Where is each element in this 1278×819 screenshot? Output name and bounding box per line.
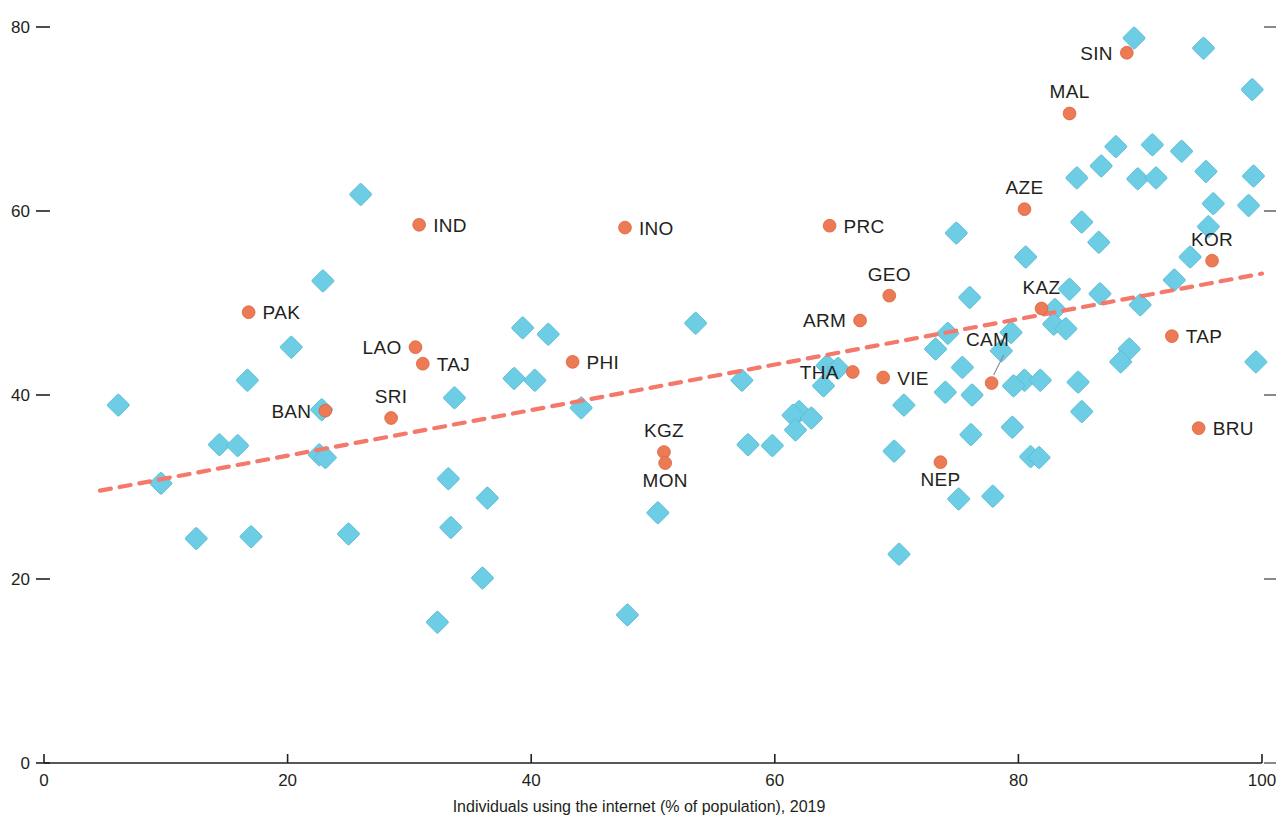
data-point-diamond bbox=[476, 486, 499, 509]
data-label-cam: CAM bbox=[966, 329, 1009, 350]
data-point-ind bbox=[413, 218, 426, 231]
scatter-chart: 020406080 020406080100 SINMALAZEPRCINDIN… bbox=[0, 0, 1278, 819]
data-point-diamond bbox=[958, 286, 981, 309]
x-tick-label-0: 0 bbox=[39, 771, 48, 790]
data-point-kaz bbox=[1035, 302, 1048, 315]
plot-area: 020406080 020406080100 SINMALAZEPRCINDIN… bbox=[0, 0, 1278, 819]
data-point-geo bbox=[883, 289, 896, 302]
data-label-kor: KOR bbox=[1191, 229, 1233, 250]
data-label-lao: LAO bbox=[363, 337, 402, 358]
x-tick-label-40: 40 bbox=[522, 771, 541, 790]
data-point-diamond bbox=[1104, 135, 1127, 158]
data-label-taj: TAJ bbox=[437, 354, 470, 375]
data-point-diamond bbox=[646, 501, 669, 524]
data-point-diamond bbox=[959, 423, 982, 446]
x-tick-label-20: 20 bbox=[278, 771, 297, 790]
data-point-diamond bbox=[1192, 37, 1215, 60]
data-label-vie: VIE bbox=[897, 368, 929, 389]
data-point-aze bbox=[1018, 203, 1031, 216]
data-point-nep bbox=[934, 456, 947, 469]
data-point-kor bbox=[1206, 254, 1219, 267]
x-tick-label-100: 100 bbox=[1248, 771, 1276, 790]
y-tick-label-80: 80 bbox=[11, 18, 30, 37]
data-point-diamond bbox=[947, 487, 970, 510]
data-label-sri: SRI bbox=[375, 386, 408, 407]
data-point-diamond bbox=[439, 516, 462, 539]
data-point-pak bbox=[242, 306, 255, 319]
data-point-ban bbox=[319, 404, 332, 417]
data-point-diamond bbox=[149, 472, 172, 495]
data-point-tap bbox=[1165, 330, 1178, 343]
data-point-diamond bbox=[1242, 164, 1265, 187]
data-point-diamond bbox=[1202, 192, 1225, 215]
data-point-phi bbox=[566, 355, 579, 368]
data-point-diamond bbox=[523, 369, 546, 392]
data-point-arm bbox=[854, 314, 867, 327]
data-point-taj bbox=[416, 357, 429, 370]
y-axis-ticks bbox=[36, 27, 50, 763]
data-label-kgz: KGZ bbox=[644, 420, 684, 441]
data-label-tap: TAP bbox=[1186, 326, 1222, 347]
data-point-diamond bbox=[1001, 416, 1024, 439]
data-point-diamond bbox=[1065, 166, 1088, 189]
data-point-prc bbox=[823, 219, 836, 232]
data-label-geo: GEO bbox=[868, 264, 911, 285]
data-point-diamond bbox=[1237, 194, 1260, 217]
data-point-diamond bbox=[443, 386, 466, 409]
data-point-diamond bbox=[1144, 166, 1167, 189]
data-point-diamond bbox=[761, 434, 784, 457]
y-tick-label-20: 20 bbox=[11, 570, 30, 589]
data-label-phi: PHI bbox=[587, 352, 620, 373]
data-point-diamond bbox=[311, 269, 334, 292]
data-label-kaz: KAZ bbox=[1023, 277, 1061, 298]
data-label-mal: MAL bbox=[1050, 81, 1090, 102]
data-point-tha bbox=[846, 366, 859, 379]
data-point-diamond bbox=[951, 356, 974, 379]
data-label-mon: MON bbox=[643, 470, 688, 491]
data-label-ban: BAN bbox=[271, 401, 311, 422]
data-point-diamond bbox=[349, 183, 372, 206]
x-axis-title: Individuals using the internet (% of pop… bbox=[453, 798, 826, 815]
data-point-diamond bbox=[1029, 369, 1052, 392]
data-point-diamond bbox=[1244, 350, 1267, 373]
data-point-diamond bbox=[537, 323, 560, 346]
x-tick-label-60: 60 bbox=[765, 771, 784, 790]
x-axis-tick-labels: 020406080100 bbox=[39, 771, 1276, 790]
data-point-diamond bbox=[945, 221, 968, 244]
data-point-diamond bbox=[239, 525, 262, 548]
data-point-diamond bbox=[1070, 400, 1093, 423]
data-point-diamond bbox=[684, 312, 707, 335]
data-point-sin bbox=[1120, 46, 1133, 59]
data-point-diamond bbox=[1087, 231, 1110, 254]
data-point-diamond bbox=[981, 485, 1004, 508]
data-point-diamond bbox=[437, 467, 460, 490]
data-point-diamond bbox=[883, 440, 906, 463]
data-point-cam bbox=[985, 377, 998, 390]
data-point-diamond bbox=[616, 603, 639, 626]
data-point-diamond bbox=[892, 394, 915, 417]
data-point-diamond bbox=[961, 383, 984, 406]
data-point-labels: SINMALAZEPRCINDINOKORGEOPAKKAZARMTAPLAOT… bbox=[263, 43, 1254, 491]
data-label-ind: IND bbox=[433, 215, 467, 236]
y-tick-label-0: 0 bbox=[21, 754, 30, 773]
data-point-diamond bbox=[236, 369, 259, 392]
data-label-nep: NEP bbox=[920, 469, 960, 490]
data-point-diamond bbox=[1241, 78, 1264, 101]
data-point-diamond bbox=[471, 566, 494, 589]
data-points-other bbox=[107, 26, 1268, 633]
data-point-diamond bbox=[503, 367, 526, 390]
data-point-diamond bbox=[1194, 160, 1217, 183]
data-point-sri bbox=[385, 412, 398, 425]
x-axis-ticks bbox=[44, 754, 1262, 763]
y-axis-ticks-right bbox=[1264, 27, 1276, 763]
data-point-mal bbox=[1063, 107, 1076, 120]
data-point-diamond bbox=[1058, 278, 1081, 301]
data-point-lao bbox=[409, 341, 422, 354]
data-point-diamond bbox=[426, 611, 449, 634]
data-point-diamond bbox=[1090, 154, 1113, 177]
data-point-diamond bbox=[736, 433, 759, 456]
data-label-aze: AZE bbox=[1006, 177, 1044, 198]
data-point-diamond bbox=[934, 381, 957, 404]
y-tick-label-60: 60 bbox=[11, 202, 30, 221]
data-label-tha: THA bbox=[800, 362, 839, 383]
